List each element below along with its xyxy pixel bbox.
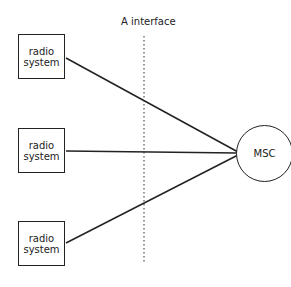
msc-node: MSC — [236, 125, 291, 182]
radio-system-label-line2: system — [23, 151, 59, 162]
radio-system-label-line1: radio — [29, 140, 54, 151]
interface-label: A interface — [121, 16, 176, 27]
radio-system-label-line1: radio — [29, 233, 54, 244]
radio-system-box-1: radio system — [18, 34, 65, 79]
diagram-canvas: A interface radio system radio system ra… — [0, 0, 291, 287]
radio-system-box-3: radio system — [18, 221, 65, 266]
radio-system-label-line2: system — [23, 57, 59, 68]
radio-system-label-line1: radio — [29, 46, 54, 57]
msc-label: MSC — [254, 148, 276, 159]
radio-system-box-2: radio system — [18, 128, 65, 173]
radio-system-label-line2: system — [23, 244, 59, 255]
